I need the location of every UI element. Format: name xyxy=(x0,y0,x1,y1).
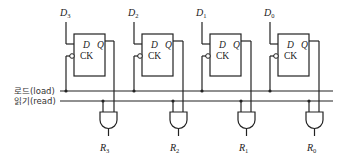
q-pin-label: Q xyxy=(165,40,172,50)
clock-bubble-icon xyxy=(138,54,143,59)
input-d2-label: D2 xyxy=(127,7,138,19)
d-pin-label: D xyxy=(82,40,90,50)
bit-1: D Q CK R1 D1 xyxy=(195,7,255,154)
clock-bubble-icon xyxy=(274,54,279,59)
bit-2: D Q CK R2 D2 xyxy=(127,7,187,154)
register-diagram: D Q CK R3 D3 D Q CK R2 D2 xyxy=(0,0,343,159)
q-pin-label: Q xyxy=(97,40,104,50)
d-pin-label: D xyxy=(286,40,294,50)
output-r1-label: R1 xyxy=(238,142,248,154)
clock-bubble-icon xyxy=(70,54,75,59)
and-gate-0 xyxy=(306,112,323,129)
d-pin-label: D xyxy=(218,40,226,50)
and-gate-3 xyxy=(100,112,117,129)
clock-bubble-icon xyxy=(206,54,211,59)
read-line-label: 읽기(read) xyxy=(14,96,56,106)
q-pin-label: Q xyxy=(233,40,240,50)
input-d1-label: D1 xyxy=(195,7,206,19)
q-pin-label: Q xyxy=(301,40,308,50)
output-r2-label: R2 xyxy=(169,142,179,154)
clk-pin-label: CK xyxy=(284,51,297,61)
bit-3: D Q CK R3 D3 xyxy=(59,7,117,154)
clk-pin-label: CK xyxy=(216,51,229,61)
output-r0-label: R0 xyxy=(306,142,316,154)
input-d0-label: D0 xyxy=(263,7,274,19)
d-pin-label: D xyxy=(150,40,158,50)
clk-pin-label: CK xyxy=(80,51,93,61)
bit-0: D Q CK R0 D0 xyxy=(263,7,323,154)
load-line-label: 로드(load) xyxy=(14,86,55,96)
input-d3-label: D3 xyxy=(59,7,70,19)
clk-pin-label: CK xyxy=(148,51,161,61)
output-r3-label: R3 xyxy=(99,142,109,154)
and-gate-2 xyxy=(170,112,187,129)
and-gate-1 xyxy=(238,112,255,129)
